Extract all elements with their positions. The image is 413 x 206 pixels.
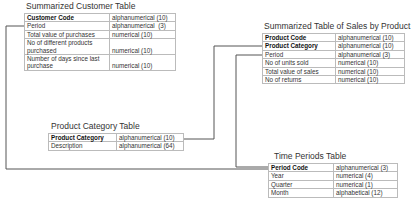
field-type — [110, 55, 176, 63]
category-table: Product Categoryalphanumerical (10) Desc… — [48, 133, 184, 151]
field-type: alphanumerical (10) — [117, 134, 184, 142]
connector-sales-category — [184, 46, 262, 139]
table-row: Product Codealphanumerical (10) — [263, 34, 405, 42]
field-name: Month — [269, 189, 334, 197]
field-type — [110, 39, 176, 47]
table-row: Total value of salesnumerical (10) — [263, 67, 405, 75]
table-row: purchasenumerical (10) — [25, 62, 176, 70]
table-row: Quarternumerical (1) — [269, 180, 398, 188]
field-type: numerical (10) — [336, 76, 405, 84]
table-row: Customer Codealphanumerical (10) — [25, 14, 176, 22]
field-type: numerical (10) — [110, 62, 176, 70]
customer-table: Customer Codealphanumerical (10) Perioda… — [24, 13, 176, 71]
field-type: alphanumerical (64) — [117, 142, 184, 150]
field-name: Total value of sales — [263, 67, 336, 75]
table-row: Monthalphabetical (12) — [269, 189, 398, 197]
field-name: Description — [49, 142, 117, 150]
field-name: No of different products — [25, 39, 110, 47]
field-name: Product Code — [263, 34, 336, 42]
field-type: alphabetical (12) — [334, 189, 398, 197]
table-row: Number of days since last — [25, 55, 176, 63]
table-row: Period Codealphanumerical (3) — [269, 164, 398, 172]
table-row: Descriptionalphanumerical (64) — [49, 142, 184, 150]
customer-table-title: Summarized Customer Table — [26, 1, 135, 11]
field-name: Total value of purchases — [25, 30, 110, 38]
table-row: Total value of purchasesnumerical (10) — [25, 30, 176, 38]
field-name: purchase — [25, 62, 110, 70]
table-row: purchasednumerical (10) — [25, 47, 176, 55]
field-type: numerical (10) — [336, 59, 405, 67]
field-type: numerical (1) — [334, 180, 398, 188]
field-type: alphanumerical (10) — [110, 14, 176, 22]
sales-table-title: Summarized Table of Sales by Product — [264, 21, 410, 31]
field-name: Period — [25, 22, 110, 30]
field-name: Year — [269, 172, 334, 180]
field-name: Product Category — [263, 42, 336, 50]
field-name: Quarter — [269, 180, 334, 188]
field-name: No of units sold — [263, 59, 336, 67]
table-row: Product Categoryalphanumerical (10) — [263, 42, 405, 50]
table-row: Yearnumerical (4) — [269, 172, 398, 180]
field-name: Customer Code — [25, 14, 110, 22]
table-row: No of units soldnumerical (10) — [263, 59, 405, 67]
category-table-title: Product Category Table — [51, 121, 140, 131]
table-row: No of different products — [25, 39, 176, 47]
field-name: No of returns — [263, 76, 336, 84]
field-name: Number of days since last — [25, 55, 110, 63]
field-type: alphanumerical (3) — [334, 164, 398, 172]
table-row: Periodalphanumerical (3) — [25, 22, 176, 30]
field-type: alphanumerical (10) — [336, 42, 405, 50]
field-type: alphanumerical (10) — [336, 34, 405, 42]
periods-table-title: Time Periods Table — [274, 151, 346, 161]
field-type: alphanumerical (3) — [110, 22, 176, 30]
field-type: numerical (10) — [110, 30, 176, 38]
field-type: numerical (10) — [110, 47, 176, 55]
table-row: Periodalphanumerical (3) — [263, 50, 405, 58]
field-name: Period — [263, 50, 336, 58]
periods-table: Period Codealphanumerical (3) Yearnumeri… — [268, 163, 398, 198]
table-row: Product Categoryalphanumerical (10) — [49, 134, 184, 142]
field-name: Period Code — [269, 164, 334, 172]
field-type: numerical (10) — [336, 67, 405, 75]
table-row: No of returnsnumerical (10) — [263, 76, 405, 84]
field-type: numerical (4) — [334, 172, 398, 180]
field-type: alphanumerical (3) — [336, 50, 405, 58]
sales-table: Product Codealphanumerical (10) Product … — [262, 33, 405, 84]
field-name: purchased — [25, 47, 110, 55]
field-name: Product Category — [49, 134, 117, 142]
